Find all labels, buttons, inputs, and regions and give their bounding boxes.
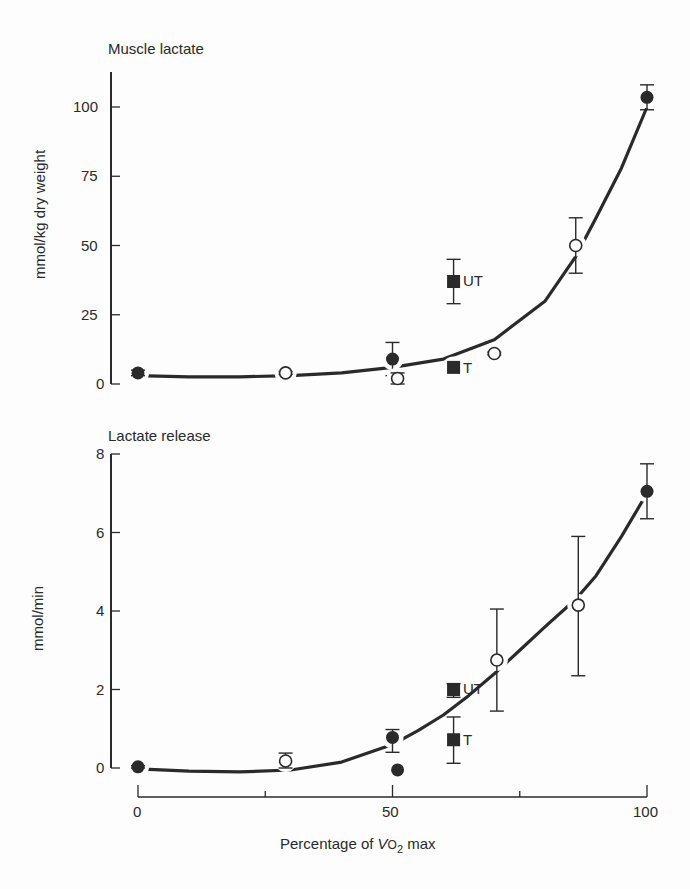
bottom-ytick-0: 0 — [96, 759, 104, 776]
open-circle-marker — [280, 755, 292, 767]
filled-square-marker — [447, 275, 460, 288]
filled-square-marker — [447, 733, 460, 746]
muscle-lactate-title: Muscle lactate — [108, 40, 204, 57]
open-circle-marker — [570, 240, 582, 252]
x-axis-label-o: O — [388, 838, 397, 852]
bottom-ytick-2: 2 — [96, 681, 104, 698]
top-ytick-50: 50 — [81, 237, 98, 254]
lactate-release-plot — [111, 454, 658, 797]
filled-square-marker — [447, 361, 460, 374]
filled-circle-marker — [386, 353, 399, 366]
top-ytick-75: 75 — [81, 167, 98, 184]
bottom-ytick-6: 6 — [96, 524, 104, 541]
filled-circle-marker — [641, 91, 654, 104]
bottom-ytick-4: 4 — [96, 602, 104, 619]
lactate-release-y-axis-label: mmol/min — [29, 569, 46, 669]
filled-square-marker — [447, 683, 460, 696]
filled-circle-marker — [391, 763, 404, 776]
top-ytick-0: 0 — [96, 375, 104, 392]
open-circle-marker — [280, 367, 292, 379]
x-axis-label-suffix: max — [403, 835, 436, 852]
muscle-lactate-plot — [111, 72, 658, 389]
top-t-label: T — [463, 359, 472, 376]
bottom-t-label: T — [463, 731, 472, 748]
open-circle-marker — [392, 372, 404, 384]
lactate-release-title: Lactate release — [108, 427, 211, 444]
filled-circle-marker — [386, 731, 399, 744]
filled-circle-marker — [641, 485, 654, 498]
xtick-50: 50 — [382, 803, 399, 820]
open-circle-marker — [491, 654, 503, 666]
open-circle-marker — [488, 348, 500, 360]
x-axis-label: Percentage of VO2 max — [280, 835, 436, 855]
bottom-ut-label: UT — [463, 680, 483, 697]
xtick-0: 0 — [133, 803, 141, 820]
top-ytick-25: 25 — [81, 306, 98, 323]
xtick-100: 100 — [633, 803, 658, 820]
filled-circle-marker — [132, 366, 145, 379]
top-ytick-100: 100 — [73, 98, 98, 115]
x-axis-label-prefix: Percentage of — [280, 835, 378, 852]
open-circle-marker — [572, 599, 584, 611]
bottom-ytick-8: 8 — [96, 445, 104, 462]
filled-circle-marker — [132, 760, 145, 773]
muscle-lactate-y-axis-label: mmol/kg dry weight — [31, 135, 48, 295]
top-ut-label: UT — [463, 272, 483, 289]
x-axis-label-v: V — [378, 835, 388, 852]
